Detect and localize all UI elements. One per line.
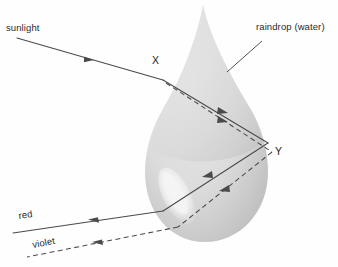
raindrop-label-leader-line (227, 41, 262, 72)
raindrop-shape (145, 5, 268, 242)
emergent-red-ray-line (13, 211, 163, 233)
diagram-canvas: sunlight raindrop (water) X Y red violet (0, 0, 338, 267)
point-y-label: Y (275, 145, 282, 157)
sunlight-ray-arrowhead (84, 57, 94, 63)
emergent-red-ray (13, 211, 163, 233)
raindrop-dispersion-diagram: sunlight raindrop (water) X Y red violet (0, 0, 338, 267)
red-ray-label: red (18, 208, 33, 221)
sunlight-ray (17, 38, 163, 80)
violet-ray-label: violet (31, 235, 56, 250)
raindrop-label: raindrop (water) (256, 21, 325, 32)
sunlight-label: sunlight (6, 22, 40, 33)
point-x-label: X (152, 54, 159, 66)
